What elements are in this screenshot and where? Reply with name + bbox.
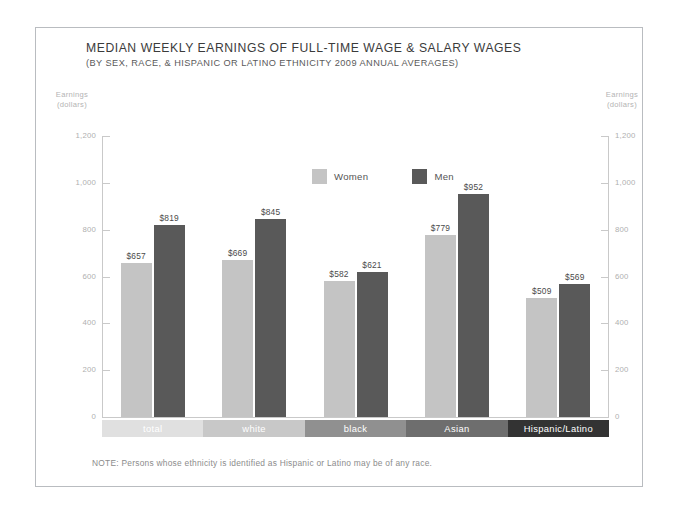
y-tick-left-200	[103, 370, 110, 371]
bar-hispanic-latino-men: $569	[559, 284, 590, 417]
y-tick-right-200	[601, 370, 608, 371]
category-label-hispanic-latino[interactable]: Hispanic/Latino	[508, 420, 609, 437]
legend-swatch-men	[412, 169, 427, 184]
bar-value-label: $582	[329, 269, 348, 279]
bar-black-women: $582	[324, 281, 355, 417]
chart-note: NOTE: Persons whose ethnicity is identif…	[92, 458, 432, 468]
chart-frame: MEDIAN WEEKLY EARNINGS OF FULL-TIME WAGE…	[35, 27, 643, 487]
category-label-total[interactable]: total	[102, 420, 203, 437]
y-tick-left-800	[103, 230, 110, 231]
y-tick-label-right-800: 800	[615, 225, 629, 234]
y-tick-label-right-0: 0	[615, 412, 620, 421]
chart-subtitle: (BY SEX, RACE, & HISPANIC OR LATINO ETHN…	[86, 58, 606, 68]
y-tick-label-left-400: 400	[82, 318, 96, 327]
y-axis-caption-right-line2: (dollars)	[592, 100, 652, 110]
y-tick-label-left-800: 800	[82, 225, 96, 234]
category-label-black[interactable]: black	[305, 420, 406, 437]
y-tick-left-0	[103, 417, 110, 418]
y-tick-left-1000	[103, 183, 110, 184]
y-tick-label-left-1200: 1,200	[75, 131, 96, 140]
bar-hispanic-latino-women: $509	[526, 298, 557, 417]
title-block: MEDIAN WEEKLY EARNINGS OF FULL-TIME WAGE…	[86, 41, 606, 68]
y-axis-caption-right: Earnings (dollars)	[592, 90, 652, 110]
category-label-asian[interactable]: Asian	[406, 420, 507, 437]
y-tick-label-right-1000: 1,000	[615, 178, 636, 187]
x-axis-baseline	[102, 417, 609, 418]
chart-legend: WomenMen	[312, 169, 454, 184]
y-tick-right-0	[601, 417, 608, 418]
y-axis-caption-left: Earnings (dollars)	[42, 90, 102, 110]
plot-area: 002002004004006006008008001,0001,0001,20…	[102, 136, 609, 417]
y-tick-left-1200	[103, 136, 110, 137]
y-tick-left-600	[103, 277, 110, 278]
y-axis-right	[608, 136, 609, 417]
legend-item-men[interactable]: Men	[412, 169, 454, 184]
page-title: MEDIAN WEEKLY EARNINGS OF FULL-TIME WAGE…	[86, 41, 606, 55]
bar-value-label: $669	[228, 248, 247, 258]
bar-value-label: $819	[159, 213, 178, 223]
bar-asian-women: $779	[425, 235, 456, 417]
y-axis-caption-left-line2: (dollars)	[42, 100, 102, 110]
bar-value-label: $845	[261, 207, 280, 217]
y-tick-label-right-600: 600	[615, 272, 629, 281]
bar-value-label: $621	[362, 260, 381, 270]
y-tick-label-left-0: 0	[91, 412, 96, 421]
y-tick-label-right-200: 200	[615, 365, 629, 374]
category-label-white[interactable]: white	[203, 420, 304, 437]
legend-item-women[interactable]: Women	[312, 169, 368, 184]
bar-value-label: $779	[431, 223, 450, 233]
y-tick-right-1200	[601, 136, 608, 137]
y-tick-right-800	[601, 230, 608, 231]
bar-value-label: $657	[126, 251, 145, 261]
bar-value-label: $952	[464, 182, 483, 192]
y-axis-caption-left-line1: Earnings	[42, 90, 102, 100]
y-tick-label-left-1000: 1,000	[75, 178, 96, 187]
bar-value-label: $509	[532, 286, 551, 296]
legend-label-men: Men	[434, 171, 454, 182]
bar-white-men: $845	[255, 219, 286, 417]
bar-value-label: $569	[565, 272, 584, 282]
y-tick-right-600	[601, 277, 608, 278]
y-tick-right-400	[601, 323, 608, 324]
bar-black-men: $621	[357, 272, 388, 417]
bar-white-women: $669	[222, 260, 253, 417]
bar-total-women: $657	[121, 263, 152, 417]
y-tick-left-400	[103, 323, 110, 324]
legend-swatch-women	[312, 169, 327, 184]
y-axis-caption-right-line1: Earnings	[592, 90, 652, 100]
y-tick-label-left-200: 200	[82, 365, 96, 374]
y-tick-label-right-400: 400	[615, 318, 629, 327]
legend-label-women: Women	[334, 171, 368, 182]
y-tick-label-right-1200: 1,200	[615, 131, 636, 140]
bar-asian-men: $952	[458, 194, 489, 417]
y-tick-label-left-600: 600	[82, 272, 96, 281]
bar-total-men: $819	[154, 225, 185, 417]
y-tick-right-1000	[601, 183, 608, 184]
category-band: totalwhiteblackAsianHispanic/Latino	[102, 420, 609, 437]
